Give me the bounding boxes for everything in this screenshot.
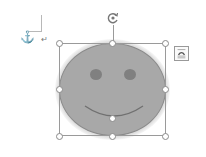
resize-handle-bottom-left[interactable] <box>56 133 63 140</box>
resize-handle-top[interactable] <box>109 40 116 47</box>
layout-options-icon[interactable] <box>174 46 189 61</box>
resize-handle-top-right[interactable] <box>162 40 169 47</box>
paragraph-mark: ↵ <box>41 35 48 44</box>
resize-handle-bottom[interactable] <box>109 133 116 140</box>
resize-handle-bottom-right[interactable] <box>162 133 169 140</box>
resize-handle-top-left[interactable] <box>56 40 63 47</box>
resize-handle-right[interactable] <box>162 86 169 93</box>
resize-handle-left[interactable] <box>56 86 63 93</box>
smile-adjust-handle[interactable] <box>109 115 116 122</box>
margin-corner-vertical <box>41 15 42 31</box>
anchor-icon[interactable]: ⚓ <box>20 30 32 44</box>
rotate-handle-icon[interactable] <box>106 11 120 25</box>
selection-box <box>59 43 166 136</box>
